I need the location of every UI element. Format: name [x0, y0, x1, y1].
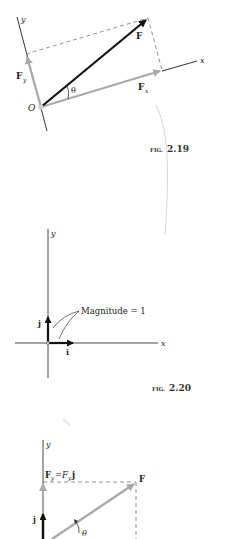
- figure-2-21-partial: y j θ F y = F y j F: [32, 440, 145, 539]
- fy-equation-label: F y = F y j: [45, 470, 75, 482]
- force-label: F: [136, 31, 143, 41]
- leader-line-i: [59, 311, 79, 339]
- fx-label: F x: [138, 82, 149, 94]
- fy-label: F y: [16, 71, 27, 84]
- y-axis-label: y: [20, 15, 26, 24]
- svg-text:y: y: [22, 76, 27, 84]
- angle-arc: [67, 86, 69, 99]
- figure-2-19: y x θ O F F y F x FIG. 2.19: [16, 15, 205, 154]
- svg-text:2.19: 2.19: [167, 144, 189, 154]
- angle-label: θ: [71, 86, 76, 95]
- unit-j-label: j: [37, 318, 41, 328]
- figure-caption-2-20: FIG. 2.20: [152, 383, 191, 393]
- dashed-line-right: [148, 18, 162, 70]
- origin-point: [38, 104, 43, 109]
- unit-j-label: j: [32, 514, 36, 524]
- svg-text:F: F: [138, 82, 145, 92]
- svg-text:j: j: [71, 470, 75, 480]
- figure-2-20: y x j i Magnitude = 1 FIG. 2.20: [15, 229, 191, 393]
- origin-label: O: [28, 103, 36, 113]
- origin-point: [47, 342, 50, 345]
- svg-text:2.20: 2.20: [169, 383, 191, 393]
- svg-text:F: F: [16, 71, 23, 81]
- figure-page: y x θ O F F y F x FIG. 2.19: [0, 0, 225, 539]
- magnitude-annotation: Magnitude = 1: [81, 306, 146, 316]
- force-vector-arrow: [41, 20, 146, 107]
- y-axis-label: y: [50, 229, 56, 238]
- svg-text:FIG.: FIG.: [152, 386, 165, 392]
- fy-component-arrow: [27, 57, 41, 107]
- unit-i-label: i: [66, 347, 69, 357]
- svg-text:x: x: [145, 87, 149, 94]
- angle-label: θ: [82, 529, 87, 538]
- svg-text:FIG.: FIG.: [150, 147, 163, 153]
- y-axis-label: y: [45, 440, 51, 449]
- force-label: F: [139, 474, 145, 484]
- figure-caption-2-19: FIG. 2.19: [150, 144, 189, 154]
- decorative-curve: [156, 105, 168, 235]
- dashed-line-top: [26, 18, 148, 54]
- force-vector-arrow: [52, 484, 134, 539]
- decorative-smudge: [63, 419, 70, 425]
- x-axis-line: [162, 61, 197, 71]
- x-axis-label: x: [200, 56, 205, 65]
- x-axis-label: x: [161, 339, 166, 348]
